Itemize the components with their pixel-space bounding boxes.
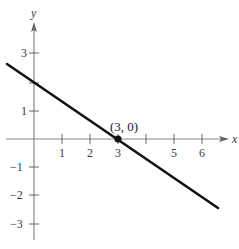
point-label: (3, 0) bbox=[110, 119, 138, 134]
x-tick-label-3: 3 bbox=[115, 146, 121, 160]
y-tick-label-neg2: −2 bbox=[10, 188, 23, 202]
x-tick-label-5: 5 bbox=[171, 146, 177, 160]
x-tick-label-1: 1 bbox=[59, 146, 65, 160]
x-tick-label-2: 2 bbox=[87, 146, 93, 160]
y-tick-label-neg3: −3 bbox=[10, 217, 23, 231]
chart-canvas: x y 1 2 3 5 6 3 1 −1 −2 −3 (3, 0) bbox=[0, 0, 239, 249]
y-axis-label: y bbox=[30, 6, 37, 20]
x-axis-label: x bbox=[231, 132, 238, 146]
x-tick-label-6: 6 bbox=[199, 146, 205, 160]
y-tick-label-neg1: −1 bbox=[10, 160, 23, 174]
y-tick-label-1: 1 bbox=[21, 104, 27, 118]
y-tick-label-3: 3 bbox=[21, 46, 27, 60]
intercept-point bbox=[115, 136, 122, 143]
data-line bbox=[7, 64, 218, 208]
